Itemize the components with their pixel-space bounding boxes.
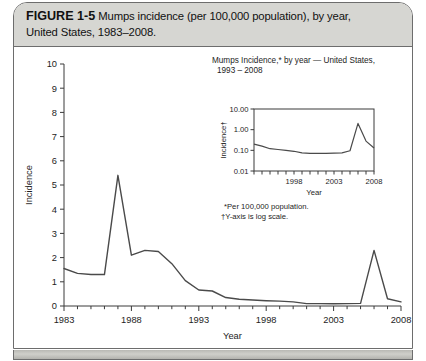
figure-caption: FIGURE 1-5 Mumps incidence (per 100,000 …	[26, 9, 402, 40]
main-y-tick-label: 8	[52, 108, 57, 118]
figure-body: 012345678910198319881993199820032008Year…	[14, 48, 412, 348]
main-y-tick-label: 6	[52, 156, 57, 166]
main-y-tick-label: 5	[52, 180, 57, 190]
inset-data-line	[254, 123, 374, 153]
inset-y-tick-label: 0.01	[234, 167, 249, 176]
main-x-tick-label: 1993	[188, 315, 209, 325]
inset-y-tick-label: 10.00	[229, 105, 248, 114]
figure-header: FIGURE 1-5 Mumps incidence (per 100,000 …	[14, 3, 412, 47]
inset-title-line1: Mumps Incidence,* by year — United State…	[212, 56, 375, 65]
main-y-tick-label: 2	[52, 253, 57, 263]
main-y-tick-label: 9	[52, 84, 57, 94]
main-y-tick-label: 3	[52, 229, 57, 239]
main-y-tick-label: 10	[47, 59, 57, 69]
inset-x-axis-title: Year	[306, 188, 322, 197]
inset-x-tick-label: 2008	[366, 177, 383, 186]
mumps-incidence-chart: 012345678910198319881993199820032008Year…	[14, 48, 412, 348]
chart-canvas: 012345678910198319881993199820032008Year…	[14, 48, 412, 348]
main-y-tick-label: 4	[52, 205, 57, 215]
main-y-tick-label: 0	[52, 301, 57, 311]
figure-footer-bar	[13, 350, 413, 360]
main-x-tick-label: 1998	[256, 315, 277, 325]
figure-card: FIGURE 1-5 Mumps incidence (per 100,000 …	[13, 2, 413, 349]
main-x-tick-label: 2008	[391, 315, 412, 325]
inset-footnote-2: †Y-axis is log scale.	[221, 212, 288, 221]
inset-footnote-1: *Per 100,000 population.	[224, 202, 309, 211]
inset-x-tick-label: 1998	[286, 177, 303, 186]
main-y-tick-label: 1	[52, 277, 57, 287]
main-y-tick-label: 7	[52, 132, 57, 142]
inset-y-axis-title: Incidence†	[219, 121, 228, 158]
inset-plot-frame	[254, 109, 374, 171]
main-x-tick-label: 1983	[54, 315, 75, 325]
inset-y-tick-label: 1.00	[234, 125, 249, 134]
inset-plot: Mumps Incidence,* by year — United State…	[212, 56, 382, 221]
main-plot: 012345678910198319881993199820032008Year…	[24, 59, 411, 341]
inset-x-tick-label: 2003	[326, 177, 343, 186]
main-x-tick-label: 1988	[121, 315, 142, 325]
figure-caption-line1: Mumps incidence (per 100,000 population)…	[98, 10, 350, 22]
figure-caption-line2: United States, 1983–2008.	[26, 26, 156, 38]
main-y-axis-title: Incidence	[24, 165, 34, 205]
figure-label: FIGURE 1-5	[26, 9, 95, 23]
main-x-tick-label: 2003	[323, 315, 344, 325]
inset-title-line2: 1993 – 2008	[217, 66, 263, 75]
main-data-line	[64, 175, 401, 304]
inset-y-tick-label: 0.10	[234, 146, 249, 155]
main-x-axis-title: Year	[223, 331, 242, 341]
